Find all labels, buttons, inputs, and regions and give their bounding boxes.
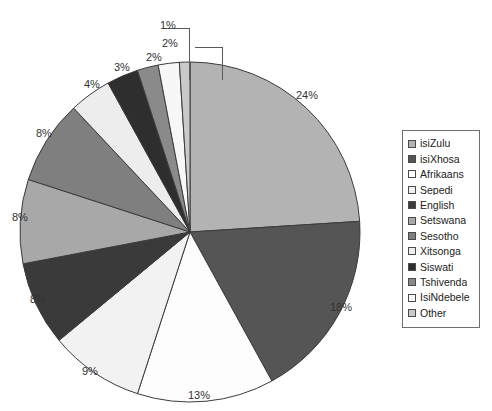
legend-item-label: Siswati [420,262,453,273]
legend-item-label: Sesotho [420,231,459,242]
legend-item-label: Tshivenda [420,277,467,288]
pie-data-label-7: 4% [84,79,100,90]
legend-item-label: English [420,200,454,211]
legend-swatch-icon [408,201,416,209]
legend-swatch-icon [408,309,416,317]
legend-item-sepedi[interactable]: Sepedi [408,182,475,197]
leader-line-2pct-horizontal [195,47,223,48]
pie-data-label-3: 9% [82,366,98,377]
pie-data-label-0: 24% [296,90,318,101]
legend-swatch-icon [408,170,416,178]
legend-swatch-icon [408,294,416,302]
legend-swatch-icon [408,186,416,194]
legend-swatch-icon [408,263,416,271]
legend-item-label: Other [420,308,446,319]
legend-item-afrikaans[interactable]: Afrikaans [408,167,475,182]
pie-data-label-8: 3% [114,62,130,73]
legend-swatch-icon [408,278,416,286]
chart-legend: isiZuluisiXhosaAfrikaansSepediEnglishSet… [402,130,480,328]
pie-slice-isizulu[interactable] [190,62,360,232]
legend-swatch-icon [408,217,416,225]
pie-data-label-4: 8% [30,294,46,305]
legend-item-sesotho[interactable]: Sesotho [408,228,475,243]
legend-swatch-icon [408,140,416,148]
legend-item-isixhosa[interactable]: isiXhosa [408,151,475,166]
legend-item-label: IsiNdebele [420,292,470,303]
leader-line-2pct-vertical [222,47,223,80]
legend-item-english[interactable]: English [408,198,475,213]
pie-data-label-9: 2% [146,52,162,63]
legend-item-label: isiXhosa [420,154,460,165]
pie-data-label-6: 8% [36,128,52,139]
pie-data-label-1: 18% [330,302,352,313]
legend-item-label: Xitsonga [420,246,461,257]
legend-item-isizulu[interactable]: isiZulu [408,136,475,151]
legend-swatch-icon [408,247,416,255]
legend-item-tshivenda[interactable]: Tshivenda [408,275,475,290]
legend-rows: isiZuluisiXhosaAfrikaansSepediEnglishSet… [408,136,475,321]
pie-data-label-10: 2% [162,38,178,49]
legend-swatch-icon [408,155,416,163]
pie-chart-plot-area [16,58,364,406]
legend-item-other[interactable]: Other [408,305,475,320]
pie-data-label-11: 1% [160,20,176,31]
legend-item-label: Sepedi [420,185,453,196]
pie-svg [16,58,364,406]
pie-slices-group [20,62,360,402]
legend-item-label: isiZulu [420,138,450,149]
pie-data-label-5: 8% [12,212,28,223]
leader-line-1pct-vertical [189,28,190,80]
pie-data-label-2: 13% [188,390,210,401]
legend-item-siswati[interactable]: Siswati [408,259,475,274]
legend-item-setswana[interactable]: Setswana [408,213,475,228]
legend-item-label: Afrikaans [420,169,464,180]
legend-item-isindebele[interactable]: IsiNdebele [408,290,475,305]
legend-item-label: Setswana [420,215,466,226]
legend-item-xitsonga[interactable]: Xitsonga [408,244,475,259]
legend-swatch-icon [408,232,416,240]
pie-chart-figure: 24%18%13%9%8%8%8%4%3%2%2%1% isiZuluisiXh… [0,0,492,411]
